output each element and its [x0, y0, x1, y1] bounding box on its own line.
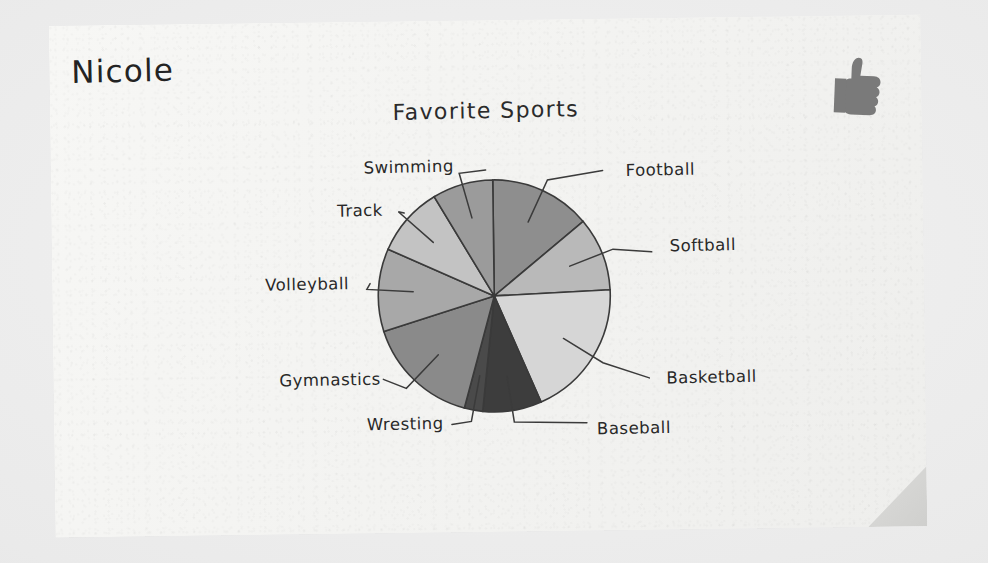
- pie-label-wresting: Wresting: [367, 414, 444, 435]
- pie-chart: Favorite Sports FootballSoftballBasketba…: [49, 14, 928, 537]
- scanned-worksheet-scene: Nicole Favorite Sports FootballSoftballB…: [0, 0, 988, 563]
- pie-label-track: Track: [337, 201, 383, 221]
- pie-chart-svg: [49, 14, 928, 537]
- pie-label-gymnastics: Gymnastics: [279, 370, 381, 391]
- pie-label-softball: Softball: [669, 235, 736, 255]
- paper-sheet: Nicole Favorite Sports FootballSoftballB…: [49, 14, 928, 537]
- pie-slices: [377, 178, 612, 413]
- pie-label-football: Football: [625, 160, 695, 180]
- pie-label-volleyball: Volleyball: [265, 274, 349, 295]
- pie-label-swimming: Swimming: [363, 157, 454, 178]
- pie-label-baseball: Baseball: [597, 418, 671, 438]
- pie-label-basketball: Basketball: [666, 367, 757, 388]
